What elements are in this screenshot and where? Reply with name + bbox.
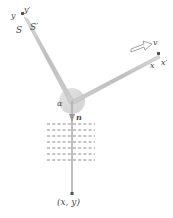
velocity-label: v xyxy=(153,39,158,47)
hatched-region xyxy=(47,124,95,160)
frame-s-prime-label: S′ xyxy=(30,23,38,32)
angle-alpha-label: α xyxy=(57,100,62,108)
normal-vector-label: n xyxy=(76,113,82,121)
x-axis-endpoint-marker xyxy=(157,52,160,55)
reference-frame-diagram xyxy=(0,0,173,218)
point-coordinates-label: (x, y) xyxy=(57,198,80,207)
y-axis-label: y xyxy=(11,12,16,20)
n-axis-arrowhead xyxy=(69,114,75,122)
x-axis xyxy=(73,55,160,104)
point-marker xyxy=(71,192,74,195)
x-prime-axis-label: x′ xyxy=(161,59,167,67)
y-prime-axis-label: y′ xyxy=(24,6,30,14)
velocity-arrow-icon xyxy=(131,41,152,52)
frame-s-label: S xyxy=(16,26,22,35)
x-axis-label: x xyxy=(150,62,155,70)
